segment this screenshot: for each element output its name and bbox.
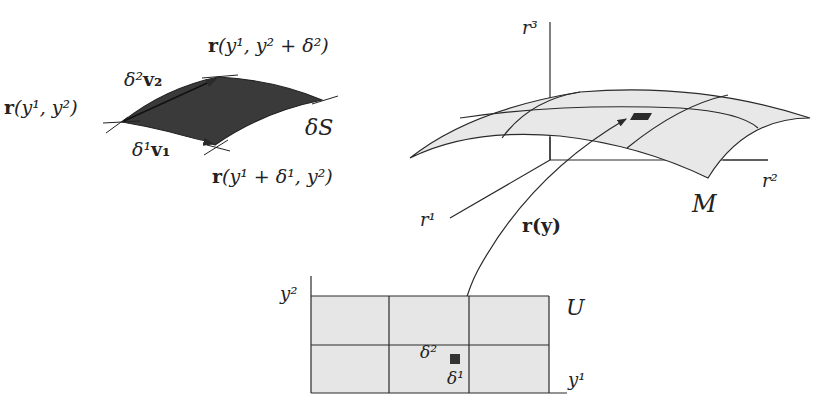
manifold-parametrization-diagram: r(y¹, y²) r(y¹, y² + δ²) r(y¹ + δ¹, y²) … <box>0 0 830 415</box>
label-r2: r² <box>762 170 778 191</box>
label-r-corner-top: r(y¹, y² + δ²) <box>208 34 329 56</box>
corner-tick-left-2 <box>106 117 128 133</box>
label-region-u: U <box>566 295 586 320</box>
label-delta2-v2: δ²v₂ <box>124 68 162 90</box>
label-delta-s: δS <box>305 115 333 140</box>
label-manifold-m: M <box>691 190 718 218</box>
label-r-of-y: r(y) <box>522 214 561 236</box>
embedding-space: r³ r² r¹ M <box>410 17 810 230</box>
label-r-corner: r(y¹, y²) <box>4 96 78 118</box>
axis-r1 <box>450 160 550 218</box>
domain-small-patch <box>450 354 460 364</box>
manifold-surface <box>410 90 810 178</box>
label-r3: r³ <box>522 17 538 38</box>
label-delta1: δ¹ <box>447 368 464 388</box>
label-y1: y¹ <box>567 369 585 390</box>
label-delta1-v1: δ¹v₁ <box>132 138 170 160</box>
label-r1: r¹ <box>420 209 436 230</box>
parameter-domain-u: y² y¹ U δ² δ¹ <box>279 276 586 393</box>
surface-element-patch: r(y¹, y²) r(y¹, y² + δ²) r(y¹ + δ¹, y²) … <box>4 34 338 187</box>
label-delta2: δ² <box>420 342 437 362</box>
label-r-corner-bottom: r(y¹ + δ¹, y²) <box>212 165 333 187</box>
label-y2: y² <box>279 283 297 304</box>
